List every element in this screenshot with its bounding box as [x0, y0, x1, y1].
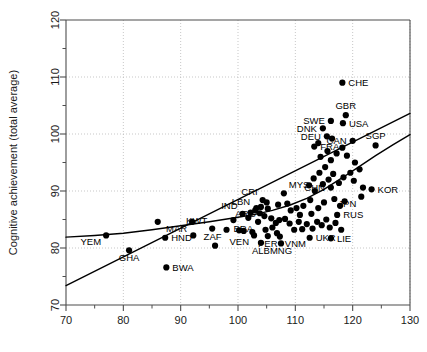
x-tick-label: 130: [401, 314, 419, 326]
point-label-MAR: MAR: [166, 223, 187, 234]
point-label-CAN: CAN: [327, 135, 347, 146]
data-point: [340, 120, 346, 126]
point-label-UKR: UKR: [316, 232, 336, 243]
data-point: [212, 243, 218, 249]
data-point: [163, 264, 169, 270]
data-point: [358, 194, 364, 200]
data-point: [261, 213, 267, 219]
point-label-RUS: RUS: [343, 209, 363, 220]
point-label-ZAF: ZAF: [204, 231, 222, 242]
plot-canvas: 708090100110120130708090100110120Cogniti…: [0, 0, 427, 352]
data-point: [327, 224, 333, 230]
y-axis-title: Cognitive achievement (total average): [7, 70, 19, 255]
point-label-JPN: JPN: [338, 198, 356, 209]
data-point: [350, 138, 356, 144]
data-point: [319, 222, 325, 228]
point-label-BRA: BRA: [234, 223, 254, 234]
data-point: [352, 159, 358, 165]
data-point: [309, 226, 315, 232]
data-point: [356, 166, 362, 172]
y-tick-label: 80: [49, 242, 61, 254]
data-point: [265, 206, 271, 212]
x-tick-label: 110: [287, 314, 305, 326]
y-tick-label: 100: [49, 125, 61, 143]
y-tick-label: 90: [49, 185, 61, 197]
data-point: [287, 220, 293, 226]
data-point: [291, 227, 297, 233]
data-point: [336, 180, 342, 186]
data-point: [328, 118, 334, 124]
point-label-KOR: KOR: [378, 184, 399, 195]
data-point: [368, 186, 374, 192]
data-point: [360, 184, 366, 190]
point-label-BWA: BWA: [172, 262, 194, 273]
data-point: [332, 220, 338, 226]
data-point: [307, 197, 313, 203]
point-label-GHA: GHA: [119, 252, 140, 263]
data-point: [328, 157, 334, 163]
data-point: [288, 207, 294, 213]
data-point: [308, 211, 314, 217]
data-point: [297, 212, 303, 218]
data-point: [300, 203, 306, 209]
point-label-GBR: GBR: [335, 100, 356, 111]
point-label-CHN: CHN: [304, 182, 325, 193]
data-point: [281, 190, 287, 196]
data-point: [293, 205, 299, 211]
data-point: [268, 215, 274, 221]
point-label-MNG: MNG: [270, 245, 292, 256]
data-point: [296, 219, 302, 225]
data-point: [328, 184, 334, 190]
point-label-YEM: YEM: [81, 236, 102, 247]
data-point: [284, 200, 290, 206]
x-tick-label: 70: [60, 314, 72, 326]
data-point: [282, 216, 288, 222]
data-point: [323, 216, 329, 222]
data-point: [223, 227, 229, 233]
data-point: [264, 199, 270, 205]
data-point: [299, 226, 305, 232]
y-tick-label: 110: [49, 68, 61, 86]
x-tick-label: 90: [175, 314, 187, 326]
data-point: [276, 217, 282, 223]
data-point: [347, 170, 353, 176]
x-tick-label: 120: [343, 314, 361, 326]
x-tick-label: 80: [117, 314, 129, 326]
point-label-LIE: LIE: [337, 233, 351, 244]
scatter-plot-figure: 708090100110120130708090100110120Cogniti…: [0, 0, 427, 352]
data-point: [331, 196, 337, 202]
data-point: [330, 171, 336, 177]
data-point: [103, 232, 109, 238]
data-point: [325, 177, 331, 183]
data-point: [315, 205, 321, 211]
point-label-LBN: LBN: [232, 196, 251, 207]
data-point: [339, 80, 345, 86]
data-point: [334, 212, 340, 218]
data-point: [344, 153, 350, 159]
point-label-VEN: VEN: [230, 236, 250, 247]
point-label-CRI: CRI: [241, 186, 257, 197]
point-label-USA: USA: [349, 118, 369, 129]
data-point: [255, 219, 261, 225]
data-point: [155, 219, 161, 225]
data-point: [317, 154, 323, 160]
data-point: [351, 178, 357, 184]
y-tick-label: 70: [49, 299, 61, 311]
data-point: [262, 227, 268, 233]
data-point: [275, 202, 281, 208]
point-label-SGP: SGP: [366, 130, 386, 141]
data-point: [321, 199, 327, 205]
data-point: [304, 221, 310, 227]
data-point: [162, 235, 168, 241]
data-point: [322, 164, 328, 170]
point-label-KWT: KWT: [186, 215, 207, 226]
data-point: [316, 170, 322, 176]
point-label-SWE: SWE: [303, 115, 325, 126]
data-point: [307, 235, 313, 241]
data-point: [274, 230, 280, 236]
point-label-CHE: CHE: [348, 77, 368, 88]
data-point: [340, 174, 346, 180]
data-point: [311, 175, 317, 181]
point-label-HND: HND: [171, 232, 192, 243]
point-label-ARG: ARG: [235, 208, 256, 219]
